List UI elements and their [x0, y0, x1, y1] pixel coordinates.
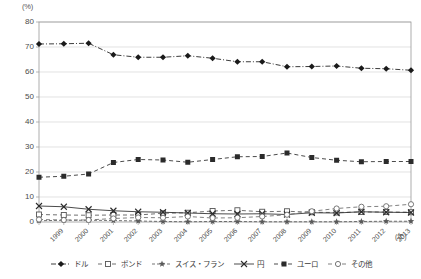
legend-item-ユーロ[interactable]: ユーロ: [273, 258, 318, 269]
data-point-marker: [105, 261, 110, 266]
legend-item-label: スイス・フラン: [175, 258, 224, 269]
data-point-marker: [359, 159, 364, 164]
data-point-marker: [61, 217, 66, 222]
data-point-marker: [260, 214, 265, 219]
currency-share-line-chart: (%) (年) 01020304050607080 19992000200120…: [0, 0, 421, 279]
legend-item-ドル[interactable]: ドル: [50, 258, 88, 269]
data-point-marker: [86, 40, 92, 46]
data-point-marker: [309, 155, 314, 160]
legend-marker-icon: [151, 259, 173, 269]
legend-marker-icon: [233, 259, 255, 269]
data-point-marker: [358, 65, 364, 71]
data-point-marker: [185, 160, 190, 165]
data-point-marker: [335, 261, 340, 266]
plot-area: [0, 0, 421, 279]
data-point-marker: [86, 172, 91, 177]
data-point-marker: [284, 64, 290, 70]
data-point-marker: [235, 154, 240, 159]
data-point-marker: [408, 202, 413, 207]
data-point-marker: [37, 212, 42, 217]
data-point-marker: [284, 212, 289, 217]
data-point-marker: [185, 214, 190, 219]
data-point-marker: [334, 158, 339, 163]
data-point-marker: [110, 52, 116, 58]
data-point-marker: [36, 41, 42, 47]
data-point-marker: [61, 174, 66, 179]
data-point-marker: [161, 158, 166, 163]
data-point-marker: [408, 67, 414, 73]
data-point-marker: [260, 154, 265, 159]
series-ユーロ: [37, 151, 414, 180]
legend-item-label: その他: [351, 258, 372, 269]
data-point-marker: [384, 204, 389, 209]
legend-item-label: ユーロ: [297, 258, 318, 269]
legend-item-その他[interactable]: その他: [327, 258, 372, 269]
series-スイス・フラン: [36, 217, 414, 225]
data-point-marker: [185, 53, 191, 59]
data-point-marker: [309, 209, 314, 214]
data-point-marker: [86, 217, 91, 222]
data-point-marker: [160, 215, 165, 220]
data-point-marker: [136, 215, 141, 220]
data-point-marker: [383, 66, 389, 72]
data-point-marker: [158, 260, 164, 266]
series-円: [36, 203, 414, 218]
data-point-marker: [36, 217, 41, 222]
data-point-marker: [334, 206, 339, 211]
legend-marker-icon: [97, 259, 119, 269]
legend-marker-icon: [327, 259, 349, 269]
data-point-marker: [210, 215, 215, 220]
data-point-marker: [37, 175, 42, 180]
data-point-marker: [160, 54, 166, 60]
data-point-marker: [334, 63, 340, 69]
data-point-marker: [136, 157, 141, 162]
data-point-marker: [111, 160, 116, 165]
legend-item-スイス・フラン[interactable]: スイス・フラン: [151, 258, 224, 269]
legend-marker-icon: [273, 259, 295, 269]
data-point-marker: [234, 59, 240, 65]
series-ドル: [36, 40, 414, 73]
data-point-marker: [235, 215, 240, 220]
legend-item-label: ポンド: [121, 258, 142, 269]
data-point-marker: [135, 54, 141, 60]
data-point-marker: [111, 216, 116, 221]
data-point-marker: [384, 159, 389, 164]
data-point-marker: [57, 260, 63, 266]
legend-item-円[interactable]: 円: [233, 258, 264, 269]
data-point-marker: [281, 261, 286, 266]
legend-item-label: 円: [257, 258, 264, 269]
data-point-marker: [61, 41, 67, 47]
data-point-marker: [309, 63, 315, 69]
data-point-marker: [409, 159, 414, 164]
legend-item-label: ドル: [74, 258, 88, 269]
data-point-marker: [210, 157, 215, 162]
data-point-marker: [259, 59, 265, 65]
legend-item-ポンド[interactable]: ポンド: [97, 258, 142, 269]
data-point-marker: [359, 204, 364, 209]
data-point-marker: [285, 151, 290, 156]
data-point-marker: [61, 213, 66, 218]
data-point-marker: [210, 55, 216, 61]
legend-marker-icon: [50, 259, 72, 269]
chart-legend: ドルポンドスイス・フラン円ユーロその他: [0, 258, 421, 269]
